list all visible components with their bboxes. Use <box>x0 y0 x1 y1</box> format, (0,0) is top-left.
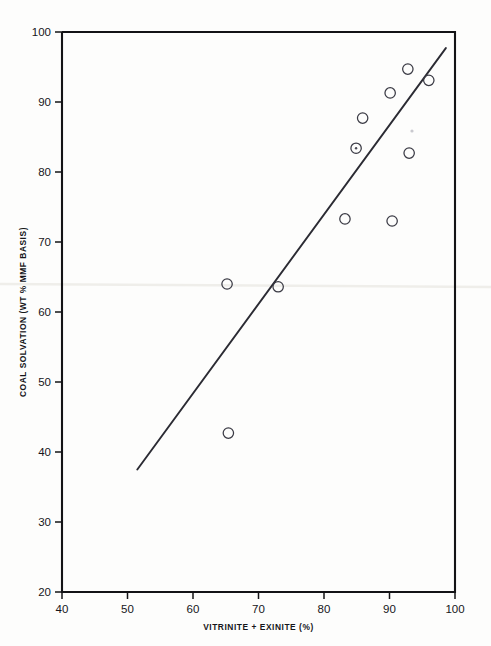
y-axis-tick-label: 20 <box>38 586 51 598</box>
x-axis-tick-label: 80 <box>318 603 331 615</box>
y-axis-tick-label: 70 <box>38 236 51 248</box>
x-axis-tick-label: 90 <box>383 603 396 615</box>
x-axis-tick-label: 70 <box>252 603 265 615</box>
y-axis-tick-label: 80 <box>38 166 51 178</box>
scatter-plot-figure: 2030405060708090100405060708090100VITRIN… <box>0 0 491 646</box>
x-axis-title: VITRINITE + EXINITE (%) <box>203 622 314 632</box>
data-point-center-dot <box>355 147 357 149</box>
y-axis-tick-label: 30 <box>38 516 51 528</box>
x-axis-tick-label: 50 <box>121 603 134 615</box>
y-axis-tick-label: 90 <box>38 96 51 108</box>
y-axis-tick-label: 50 <box>38 376 51 388</box>
x-axis-tick-label: 40 <box>56 603 69 615</box>
x-axis-tick-label: 100 <box>445 603 464 615</box>
y-axis-title: COAL SOLVATION (WT % MMF BASIS) <box>18 227 28 397</box>
y-axis-tick-label: 60 <box>38 306 51 318</box>
scan-speck <box>410 129 413 132</box>
y-axis-tick-label: 100 <box>32 26 51 38</box>
plot-canvas: 2030405060708090100405060708090100VITRIN… <box>0 0 491 646</box>
x-axis-tick-label: 60 <box>187 603 200 615</box>
y-axis-tick-label: 40 <box>38 446 51 458</box>
